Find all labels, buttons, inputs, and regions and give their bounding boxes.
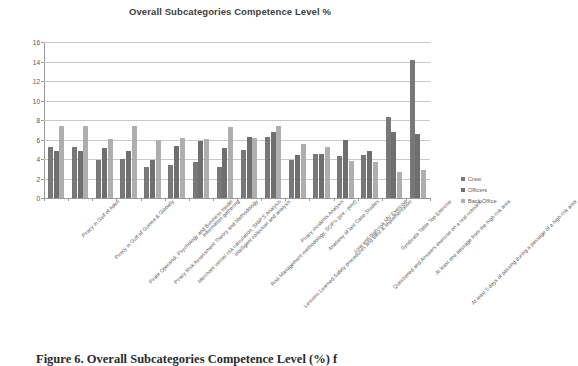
bar [271, 132, 276, 198]
y-tick-label-16: 16 [33, 39, 40, 46]
bar [174, 146, 179, 198]
bars-layer [44, 42, 430, 198]
y-tick-label-6: 6 [36, 136, 40, 143]
bar [228, 127, 233, 198]
x-axis-label: Merchant vessel risk calculation, SHIP'S… [197, 199, 282, 284]
bar [397, 172, 402, 198]
bar-group [261, 42, 285, 198]
legend-item: Officers [461, 187, 521, 193]
y-tick-label-10: 10 [33, 97, 40, 104]
figure-caption: Figure 6. Overall Subcategories Competen… [36, 352, 496, 366]
legend-label: Officers [468, 187, 487, 193]
bar [198, 141, 203, 198]
bar [150, 160, 155, 198]
bar [301, 144, 306, 198]
square-swatch-icon [461, 199, 465, 203]
bar [325, 147, 330, 198]
bar [410, 60, 415, 198]
bar-group [237, 42, 261, 198]
bar [72, 147, 77, 198]
bar [180, 138, 185, 198]
bar [361, 155, 366, 198]
chart-title: Overall Subcategories Competence Level % [0, 6, 460, 17]
bar [276, 126, 281, 198]
bar [241, 150, 246, 198]
y-tick-label-8: 8 [36, 117, 40, 124]
bar [78, 151, 83, 198]
legend-item: Crew [461, 176, 521, 182]
bar [96, 160, 101, 198]
bar [132, 126, 137, 198]
y-tick-label-12: 12 [33, 78, 40, 85]
caption-text: Overall Subcategories Competence Level (… [87, 352, 337, 366]
bar [337, 156, 342, 198]
bar [217, 167, 222, 198]
legend-label: Back Office [468, 198, 497, 204]
bar [222, 148, 227, 198]
bar [313, 154, 318, 198]
x-axis-label: At least 5 days of passing during a pass… [471, 199, 578, 306]
bar-group [334, 42, 358, 198]
y-tick-label-4: 4 [36, 156, 40, 163]
legend-label: Crew [468, 176, 481, 182]
bar [247, 137, 252, 198]
bar [415, 134, 420, 198]
bar [204, 139, 209, 198]
bar [120, 159, 125, 198]
x-axis-label: Intelligent collection and analysis [234, 199, 292, 257]
x-axis-label: Piracy in Gulf of Guinea & Globally [114, 199, 175, 260]
x-axis-label: Risk Management methodology, SOP's (pre … [270, 199, 358, 287]
bar-group [406, 42, 430, 198]
bar-group [382, 42, 406, 198]
x-tick [430, 198, 431, 201]
bar [144, 167, 149, 198]
bar [252, 138, 257, 198]
caption-prefix: Figure 6. [36, 352, 87, 366]
bar [168, 165, 173, 198]
x-axis-label: Piracy in Gulf of Aden [81, 199, 121, 239]
bar [373, 162, 378, 198]
bar-group [285, 42, 309, 198]
bar [289, 160, 294, 199]
plot-area: 0246810121416 [44, 42, 430, 198]
bar [48, 147, 53, 198]
bar [102, 148, 107, 198]
bar [343, 140, 348, 198]
bar-group [116, 42, 140, 198]
bar [193, 162, 198, 198]
x-axis-category-labels: Piracy in Gulf of AdenPiracy in Gulf of … [44, 199, 430, 349]
bar [108, 139, 113, 198]
bar [421, 170, 426, 198]
square-swatch-icon [461, 177, 465, 181]
bar [126, 151, 131, 198]
bar-group [68, 42, 92, 198]
bar-group [44, 42, 68, 198]
bar [83, 126, 88, 198]
bar-group [92, 42, 116, 198]
bar [349, 161, 354, 198]
bar [391, 132, 396, 198]
bar [265, 137, 270, 198]
legend-item: Back Office [461, 198, 521, 204]
bar [319, 154, 324, 198]
bar-group [189, 42, 213, 198]
y-tick-label-0: 0 [36, 195, 40, 202]
bar-group [309, 42, 333, 198]
square-swatch-icon [461, 188, 465, 192]
y-tick-label-2: 2 [36, 175, 40, 182]
y-tick-label-14: 14 [33, 58, 40, 65]
bar [156, 140, 161, 198]
bar [367, 151, 372, 198]
chart-legend: CrewOfficersBack Office [461, 176, 521, 209]
bar-group [141, 42, 165, 198]
bar-group [358, 42, 382, 198]
bar [295, 155, 300, 198]
bar [54, 151, 59, 198]
bar-group [165, 42, 189, 198]
bar-group [213, 42, 237, 198]
bar [59, 126, 64, 198]
bar [386, 117, 391, 198]
